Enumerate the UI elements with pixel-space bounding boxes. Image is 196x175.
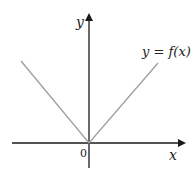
origin-label: 0 <box>80 147 87 160</box>
x-axis-label: x <box>169 147 177 163</box>
graph: y x 0 y = f(x) <box>0 0 196 175</box>
y-axis-label: y <box>75 14 85 30</box>
curve-label: y = f(x) <box>141 44 191 59</box>
